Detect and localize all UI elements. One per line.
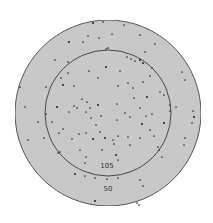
data-dot bbox=[24, 106, 26, 108]
data-dot bbox=[139, 137, 141, 139]
data-dot bbox=[141, 123, 143, 125]
data-dot bbox=[113, 143, 115, 145]
data-dot bbox=[92, 22, 94, 24]
data-dot bbox=[138, 204, 140, 206]
data-dot bbox=[105, 66, 107, 68]
data-dot bbox=[73, 85, 75, 87]
data-dot bbox=[163, 122, 165, 124]
data-dot bbox=[184, 137, 186, 139]
data-dot bbox=[94, 200, 96, 202]
data-dot bbox=[57, 152, 59, 154]
data-dot bbox=[123, 24, 125, 26]
data-dot bbox=[84, 162, 86, 164]
data-dot bbox=[151, 113, 153, 115]
data-dot bbox=[85, 132, 87, 134]
data-dot bbox=[192, 110, 194, 112]
data-dot bbox=[183, 144, 185, 146]
data-dot bbox=[193, 116, 195, 118]
data-dot bbox=[89, 107, 91, 109]
data-dot bbox=[79, 149, 81, 151]
data-dot bbox=[117, 177, 119, 179]
data-dot bbox=[100, 115, 102, 117]
data-dot bbox=[145, 115, 147, 117]
data-dot bbox=[106, 178, 108, 180]
data-dot bbox=[116, 103, 118, 105]
data-dot bbox=[129, 144, 131, 146]
data-dot bbox=[101, 149, 103, 151]
data-dot bbox=[74, 173, 76, 175]
data-dot bbox=[134, 60, 136, 62]
data-dot bbox=[81, 98, 83, 100]
data-dot bbox=[88, 70, 90, 72]
data-dot bbox=[139, 59, 141, 61]
data-dot bbox=[27, 139, 29, 141]
data-dot bbox=[153, 135, 155, 137]
data-dot bbox=[59, 151, 61, 153]
data-dot bbox=[169, 110, 171, 112]
data-dot bbox=[127, 82, 129, 84]
inner-circle-label: 105 bbox=[100, 162, 113, 170]
diagram-canvas: 105 50 bbox=[0, 0, 213, 223]
data-dot bbox=[119, 70, 121, 72]
data-dot bbox=[102, 21, 104, 23]
data-dot bbox=[144, 51, 146, 53]
data-dot bbox=[84, 175, 86, 177]
data-dot bbox=[67, 72, 69, 74]
data-dot bbox=[142, 62, 144, 64]
data-dot bbox=[67, 61, 69, 63]
data-dot bbox=[76, 107, 78, 109]
data-dot bbox=[149, 129, 151, 131]
data-dot bbox=[87, 35, 89, 37]
data-dot bbox=[95, 124, 97, 126]
data-dot bbox=[139, 34, 141, 36]
data-dot bbox=[139, 179, 141, 181]
data-dot bbox=[136, 202, 138, 204]
data-dot bbox=[78, 133, 80, 135]
data-dot bbox=[116, 119, 118, 121]
data-dot bbox=[175, 106, 177, 108]
data-dot bbox=[68, 41, 70, 43]
data-dot bbox=[129, 116, 131, 118]
data-dot bbox=[85, 156, 87, 158]
data-dot bbox=[19, 86, 21, 88]
data-dot bbox=[163, 94, 165, 96]
data-dot bbox=[71, 138, 73, 140]
data-dot bbox=[154, 43, 156, 45]
data-dot bbox=[130, 58, 132, 60]
data-dot bbox=[37, 121, 39, 123]
data-dot bbox=[169, 104, 171, 106]
data-dot bbox=[117, 85, 119, 87]
data-dot bbox=[43, 137, 45, 139]
data-dot bbox=[181, 71, 183, 73]
data-dot bbox=[99, 131, 101, 133]
data-dot bbox=[62, 128, 64, 130]
data-dot bbox=[142, 81, 144, 83]
data-dot bbox=[146, 96, 148, 98]
data-dot bbox=[132, 87, 134, 89]
data-dot bbox=[191, 122, 193, 124]
data-dot bbox=[124, 112, 126, 114]
data-dot bbox=[45, 86, 47, 88]
data-dot bbox=[94, 177, 96, 179]
data-dot bbox=[62, 84, 64, 86]
data-dot bbox=[105, 48, 107, 50]
data-dot bbox=[54, 59, 56, 61]
data-dot bbox=[86, 101, 88, 103]
data-dot bbox=[133, 97, 135, 99]
data-dot bbox=[157, 146, 159, 148]
data-dot bbox=[60, 77, 62, 79]
data-dot bbox=[92, 138, 94, 140]
data-dot bbox=[126, 56, 128, 58]
data-dot bbox=[142, 185, 144, 187]
data-dot bbox=[111, 33, 113, 35]
data-dot bbox=[56, 106, 58, 108]
data-dot bbox=[73, 105, 75, 107]
data-dot bbox=[45, 113, 47, 115]
data-dot bbox=[90, 117, 92, 119]
data-dot bbox=[104, 137, 106, 139]
data-dot bbox=[51, 121, 53, 123]
outer-circle-label: 50 bbox=[104, 185, 113, 193]
data-dot bbox=[151, 67, 153, 69]
data-dot bbox=[158, 149, 160, 151]
data-dot bbox=[107, 47, 109, 49]
